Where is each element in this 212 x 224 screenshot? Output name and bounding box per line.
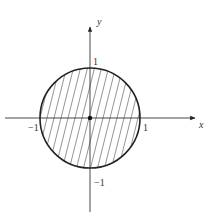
origin-dot	[88, 116, 92, 120]
unit-disk-diagram: y x 1 −1 −1 1	[0, 0, 212, 224]
y-tick-pos-1: 1	[93, 56, 98, 67]
y-tick-neg-1: −1	[94, 177, 105, 188]
x-axis-label: x	[198, 119, 204, 130]
y-axis-label: y	[96, 16, 102, 27]
x-tick-neg-1: −1	[28, 122, 39, 133]
x-tick-pos-1: 1	[143, 122, 148, 133]
